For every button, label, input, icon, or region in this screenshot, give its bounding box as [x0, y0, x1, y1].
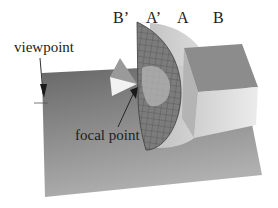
label-a-prime: A’	[146, 10, 161, 26]
label-b: B	[213, 10, 224, 26]
label-a: A	[177, 10, 189, 26]
diagram-scene: B’ A’ A B viewpoint focal point	[0, 0, 278, 208]
label-b-prime: B’	[113, 10, 129, 26]
label-viewpoint: viewpoint	[14, 40, 74, 55]
label-focal-point: focal point	[75, 128, 140, 143]
render-3d-scene	[0, 0, 278, 208]
